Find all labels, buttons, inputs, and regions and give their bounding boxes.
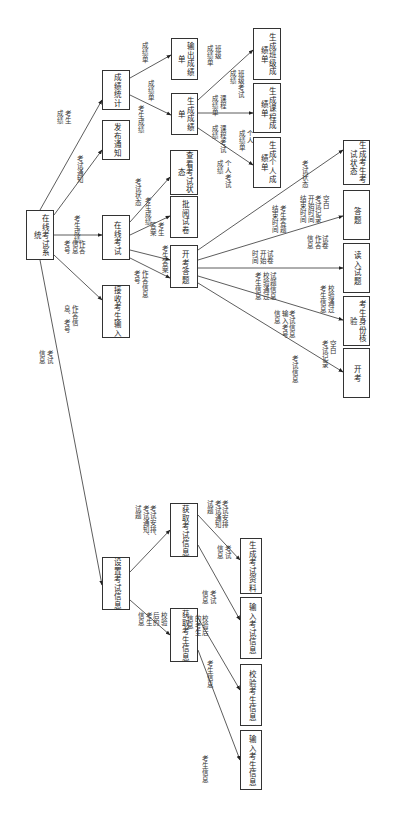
flow-label: 空白 考试记录 开始时间 结束时间 [298, 195, 328, 223]
flow-label: 成绩单 [146, 80, 153, 101]
node-label: 批阅试卷 [180, 200, 189, 234]
node-label: 生成成绩单 [176, 94, 193, 134]
node-gen-personal-report: 生成个人成绩单 [253, 137, 281, 188]
node-online-exam-system: 在线考试系统 [26, 210, 54, 260]
node-label: 生成个人成绩单 [258, 138, 275, 187]
node-start-exam: 开考 [343, 348, 370, 398]
node-receive-input: 接收考生输入 [102, 285, 130, 338]
flow-label: 考生成绩 [143, 197, 150, 225]
flow-label: 考生 答案 [148, 222, 163, 236]
flow-label: 班级 成绩单 [205, 45, 220, 66]
node-label: 发布通知 [112, 123, 121, 157]
node-gen-course-report: 生成课程成绩单 [253, 83, 281, 133]
flow-label: 作答 信息 考号 [62, 240, 84, 254]
node-output-report: 输出成绩单 [171, 38, 198, 80]
flow-label: 考生成绩 [72, 215, 79, 243]
node-label: 读入试题 [352, 251, 361, 285]
flow-label: 考生信息 [200, 755, 207, 783]
node-label: 开考 [352, 365, 361, 382]
flow-label: 试题信息 校验通过 考生信息 [253, 272, 275, 300]
node-label: 生成班级成绩单 [258, 29, 275, 79]
node-set-exam-info: 设置考试信息 [102, 557, 130, 610]
flow-label: 校验 后的 考生 信息 [136, 612, 166, 626]
flow-label: 成绩单 [140, 42, 147, 63]
node-input-student-info: 输入考生信息 [240, 730, 262, 790]
flow-label: 考试信息 [290, 355, 297, 383]
flow-label: 考试状态 [133, 178, 140, 206]
node-publish-notice: 发布通知 [102, 120, 130, 160]
flow-label: 作答信息 考号 [132, 270, 147, 298]
node-label: 输出成绩单 [176, 39, 193, 79]
node-gen-class-report: 生成班级成绩单 [253, 28, 281, 80]
node-gen-exam-material: 生成考试资料 [240, 538, 262, 594]
flow-label: 考生答题 结束时间 [270, 205, 285, 233]
node-answer: 答题 [343, 190, 370, 240]
flow-label: 考试 信息 [37, 350, 52, 364]
node-label: 设置考试信息 [112, 558, 121, 609]
node-label: 查看考试状态 [175, 151, 192, 194]
flow-label: 课程 成绩单 [210, 95, 225, 116]
flow-label: 班级考试 成绩 [228, 70, 243, 98]
node-label: 成绩统计 [112, 73, 121, 107]
node-label: 输入考生信息 [247, 735, 256, 786]
flow-label: 考试安排 考试通知 试题 [205, 500, 227, 528]
node-label: 输入考试信息 [247, 603, 256, 654]
node-start-answering: 开考答题 [170, 245, 198, 288]
flow-label: 个人 成绩单 [237, 130, 252, 151]
flow-label: 空白 考试记录 [320, 340, 335, 368]
flow-label: 考试安排、 考试通知、 试题 [133, 505, 155, 540]
node-label: 生成考试资料 [247, 541, 256, 592]
flow-label: 校验后 的考生 信息 [185, 615, 207, 636]
node-score-statistics: 成绩统计 [102, 70, 130, 110]
node-input-exam-info: 输入考试信息 [240, 597, 262, 659]
node-online-exam: 在线考试 [102, 215, 130, 260]
node-read-questions: 读入试题 [343, 243, 370, 293]
flow-label: 试卷 作答 信息 [305, 235, 327, 249]
flow-label: 校验通过 考生信息 [318, 285, 333, 313]
node-grade-papers: 批阅试卷 [170, 196, 198, 238]
flow-label: 考试 信息 [200, 590, 215, 604]
node-get-exam-info: 获取考试信息 [170, 503, 198, 557]
node-verify-student-info: 校验考生信息 [240, 664, 262, 726]
node-label: 在线考试 [112, 221, 121, 255]
node-label: 获取考试信息 [180, 505, 189, 556]
node-label: 答题 [352, 207, 361, 224]
flow-label: 考生信息 [205, 660, 212, 688]
flow-label: 考试状态 [300, 160, 307, 188]
node-generate-report: 生成成绩单 [171, 93, 198, 135]
flow-label: 考生 成绩 [55, 110, 70, 124]
node-label: 考生身份核验 [348, 297, 365, 345]
node-view-exam-status: 查看考试状态 [170, 150, 198, 195]
flow-label: 考生成绩 [136, 105, 143, 133]
flow-label: 考生答案 [160, 245, 167, 273]
node-label: 开考答题 [180, 250, 189, 284]
flow-label: 试卷 开始 时间 [250, 250, 272, 264]
flow-label: 作答信 息、考号 [62, 305, 77, 333]
flow-label: 考试信息 输入考号 信息 [272, 310, 294, 338]
node-label: 生成课程成绩单 [258, 84, 275, 132]
node-gen-student-status: 生成考生考试状态 [343, 140, 370, 185]
flow-label: 课程考试 成绩 [210, 125, 225, 153]
node-label: 在线考试系统 [31, 211, 48, 259]
flow-label: 考试通知 [75, 155, 82, 183]
node-label: 生成考生考试状态 [348, 141, 365, 184]
data-flow-diagram: 在线考试系统 成绩统计 发布通知 在线考试 接收考生输入 设置考试信息 输出成绩… [0, 0, 395, 820]
flow-label: 个人考试 成绩 [215, 160, 230, 188]
node-label: 校验考生信息 [247, 670, 256, 721]
flow-label: 考试 信息 [215, 545, 230, 559]
node-label: 接收考生输入 [112, 286, 121, 337]
node-verify-identity: 考生身份核验 [343, 296, 370, 346]
